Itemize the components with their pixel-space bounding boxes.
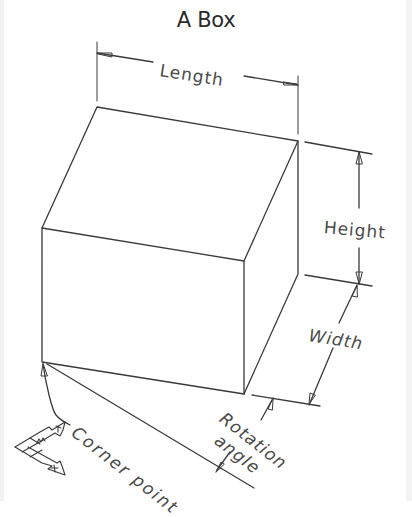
- box-wireframe: [42, 107, 298, 394]
- corner-point-leader: [41, 364, 70, 425]
- ucs-axis-icon: [15, 422, 65, 475]
- height-dimension: [305, 142, 372, 286]
- length-dimension: [97, 42, 298, 134]
